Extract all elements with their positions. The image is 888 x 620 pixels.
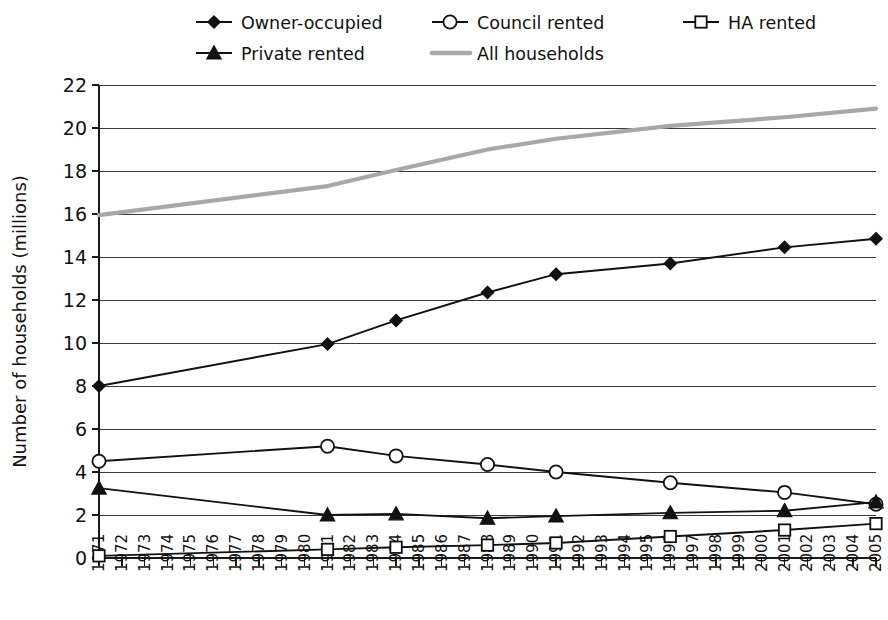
y-tick-label: 0 <box>75 547 87 569</box>
marker-diamond-0-2 <box>390 314 402 326</box>
plot-area: 0246810121416182022197119721973197419751… <box>9 74 885 572</box>
y-tick-label: 12 <box>63 289 87 311</box>
marker-diamond-0-0 <box>93 380 105 392</box>
y-tick-label: 4 <box>75 461 87 483</box>
legend-item-3[interactable]: Private rented <box>196 44 365 64</box>
legend-item-2[interactable]: HA rented <box>683 13 816 33</box>
marker-square-2-3 <box>482 539 493 550</box>
marker-circle-1-5 <box>664 476 677 489</box>
x-tick-label: 1985 <box>410 534 428 572</box>
y-tick-label: 14 <box>63 246 87 268</box>
x-tick-label: 1997 <box>684 534 702 572</box>
marker-square-2-0 <box>93 550 104 561</box>
marker-triangle-3-0 <box>92 481 106 494</box>
y-tick-label: 22 <box>63 74 87 96</box>
x-tick-label: 1983 <box>364 534 382 572</box>
x-tick-label: 1995 <box>638 534 656 572</box>
marker-circle-1-4 <box>549 465 562 478</box>
legend-item-4[interactable]: All households <box>432 44 604 64</box>
marker-diamond-0-3 <box>481 286 493 298</box>
marker-diamond-0-1 <box>321 338 333 350</box>
legend-label: Private rented <box>241 44 365 64</box>
chart-container: Owner-occupiedCouncil rentedHA rentedPri… <box>0 0 888 620</box>
legend-label: Owner-occupied <box>241 13 383 33</box>
marker-diamond-0-4 <box>550 268 562 280</box>
x-tick-label: 1979 <box>273 534 291 572</box>
marker-circle-1-1 <box>321 440 334 453</box>
x-tick-label: 1980 <box>296 534 314 572</box>
x-tick-label: 2003 <box>821 534 839 572</box>
marker-square-legend-2 <box>695 16 706 27</box>
x-tick-label: 1992 <box>570 534 588 572</box>
y-tick-label: 6 <box>75 418 87 440</box>
marker-diamond-0-5 <box>664 257 676 269</box>
x-tick-label: 1978 <box>250 534 268 572</box>
marker-square-2-1 <box>322 544 333 555</box>
marker-circle-1-3 <box>481 458 494 471</box>
x-tick-label: 2001 <box>776 534 794 572</box>
marker-circle-1-2 <box>389 449 402 462</box>
x-tick-label: 1999 <box>730 534 748 572</box>
marker-square-2-7 <box>870 518 881 529</box>
x-tick-label: 1973 <box>136 534 154 572</box>
marker-square-2-2 <box>390 542 401 553</box>
y-axis-title: Number of households (millions) <box>9 175 30 468</box>
x-tick-label: 1982 <box>341 534 359 572</box>
series-line-0 <box>99 239 876 386</box>
marker-diamond-legend-0 <box>208 16 220 28</box>
line-chart: Owner-occupiedCouncil rentedHA rentedPri… <box>0 0 888 620</box>
y-tick-label: 2 <box>75 504 87 526</box>
x-tick-label: 1998 <box>707 534 725 572</box>
x-tick-label: 1972 <box>113 534 131 572</box>
y-tick-label: 16 <box>63 203 87 225</box>
x-tick-label: 1989 <box>501 534 519 572</box>
x-tick-label: 2005 <box>867 534 885 572</box>
x-tick-label: 2000 <box>753 534 771 572</box>
marker-circle-legend-1 <box>443 15 456 28</box>
series-line-1 <box>99 446 876 504</box>
marker-circle-1-0 <box>92 455 105 468</box>
legend-label: All households <box>477 44 604 64</box>
marker-square-2-6 <box>779 524 790 535</box>
marker-diamond-0-6 <box>778 241 790 253</box>
marker-square-2-4 <box>550 537 561 548</box>
marker-square-2-5 <box>665 531 676 542</box>
y-tick-label: 20 <box>63 117 87 139</box>
marker-circle-1-6 <box>778 486 791 499</box>
legend-label: HA rented <box>728 13 816 33</box>
x-tick-label: 1986 <box>433 534 451 572</box>
y-tick-label: 8 <box>75 375 87 397</box>
x-tick-label: 1987 <box>456 534 474 572</box>
series-line-4 <box>99 109 876 215</box>
x-tick-label: 1990 <box>524 534 542 572</box>
y-tick-label: 10 <box>63 332 87 354</box>
legend-item-1[interactable]: Council rented <box>432 13 604 33</box>
x-tick-label: 2004 <box>844 534 862 572</box>
legend: Owner-occupiedCouncil rentedHA rentedPri… <box>196 13 816 64</box>
legend-item-0[interactable]: Owner-occupied <box>196 13 383 33</box>
x-tick-label: 2002 <box>798 534 816 572</box>
y-tick-label: 18 <box>63 160 87 182</box>
marker-diamond-0-7 <box>870 233 882 245</box>
legend-label: Council rented <box>477 13 604 33</box>
